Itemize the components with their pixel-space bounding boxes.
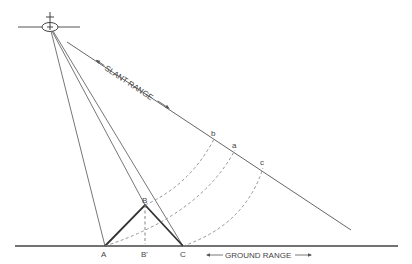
arc-B-to-b bbox=[145, 139, 214, 205]
label-B: B bbox=[142, 196, 147, 205]
sensor-icon bbox=[18, 12, 80, 32]
label-B-prime: B' bbox=[141, 250, 148, 259]
slant-ground-range-diagram: SLANT RANGE A B B' C b a c GROUND RANGE bbox=[0, 0, 412, 264]
label-A: A bbox=[101, 250, 107, 259]
arc-C-to-c bbox=[183, 168, 263, 246]
label-C: C bbox=[180, 250, 186, 259]
label-a: a bbox=[232, 141, 237, 150]
ray-to-C bbox=[53, 31, 183, 246]
terrain-feature bbox=[105, 205, 183, 246]
sensor-rays bbox=[51, 31, 183, 246]
ray-to-A bbox=[51, 31, 105, 246]
ray-to-B bbox=[52, 31, 145, 205]
slant-range-label-group: SLANT RANGE bbox=[93, 57, 171, 113]
range-arcs bbox=[105, 139, 263, 246]
label-b: b bbox=[211, 129, 216, 138]
label-c: c bbox=[260, 158, 264, 167]
ground-range-label-group: GROUND RANGE bbox=[206, 251, 312, 260]
ground-range-label: GROUND RANGE bbox=[225, 251, 291, 260]
slant-range-label: SLANT RANGE bbox=[103, 64, 155, 103]
